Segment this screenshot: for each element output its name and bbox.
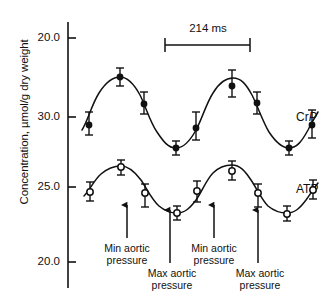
crp-point <box>229 83 236 90</box>
crp-point <box>173 145 180 152</box>
annotation-arrows <box>127 205 258 263</box>
scale-bar <box>165 38 250 52</box>
atp-point <box>142 190 148 196</box>
crp-point <box>286 145 293 152</box>
crp-point <box>193 125 200 132</box>
crp-point <box>117 74 124 81</box>
crp-point <box>141 101 148 108</box>
atp-point <box>87 189 93 195</box>
atp-fit-curve <box>84 165 318 213</box>
series-crp <box>82 68 318 155</box>
atp-point <box>194 188 200 194</box>
crp-point <box>86 122 93 129</box>
atp-point <box>310 187 316 193</box>
chart-figure: Concentration, µmol/g dry weight 20.0 30… <box>0 0 335 299</box>
atp-point <box>255 190 261 196</box>
series-atp <box>84 160 318 221</box>
atp-point <box>229 168 235 174</box>
atp-point <box>284 211 290 217</box>
atp-point <box>118 164 124 170</box>
crp-point <box>254 100 261 107</box>
y-axis-spine <box>68 22 76 288</box>
crp-point <box>309 122 316 129</box>
plot-vector-layer <box>0 0 335 299</box>
atp-point <box>174 210 180 216</box>
crp-error-bars <box>85 68 316 155</box>
